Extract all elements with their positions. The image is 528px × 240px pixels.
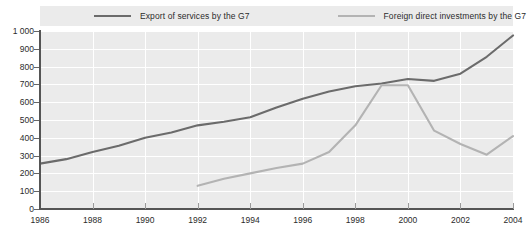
y-axis-label: 700	[0, 79, 34, 89]
x-axis-tick	[355, 203, 356, 209]
x-axis-label: 1988	[73, 215, 113, 225]
x-axis-label: 1992	[178, 215, 218, 225]
x-axis-tick	[250, 203, 251, 209]
x-axis-label: 1986	[20, 215, 60, 225]
y-axis-label: 500	[0, 115, 34, 125]
x-axis-tick	[460, 203, 461, 209]
y-axis-tick	[34, 173, 39, 174]
y-axis-label: 0	[0, 204, 34, 214]
gridline-vertical	[513, 31, 514, 209]
x-axis-label: 1990	[125, 215, 165, 225]
legend-label: Export of services by the G7	[140, 11, 250, 21]
legend-entry-foreign-direct-investments: Foreign direct investments by the G7	[338, 6, 527, 26]
x-axis-label: 1998	[335, 215, 375, 225]
y-axis-label: 600	[0, 97, 34, 107]
y-axis-label: 200	[0, 168, 34, 178]
y-axis-tick	[34, 209, 39, 210]
x-axis-tick	[303, 203, 304, 209]
legend-label: Foreign direct investments by the G7	[384, 11, 527, 21]
legend-entry-export-of-services: Export of services by the G7	[94, 6, 250, 26]
x-axis-label: 2004	[493, 215, 528, 225]
x-axis-label: 2002	[440, 215, 480, 225]
x-axis-label: 1994	[230, 215, 270, 225]
line-foreign-direct-investments	[198, 85, 513, 186]
x-axis-tick	[145, 203, 146, 209]
y-axis-line	[39, 30, 41, 210]
legend-line-swatch-icon	[94, 15, 131, 17]
x-axis-tick	[198, 203, 199, 209]
y-axis-tick	[34, 102, 39, 103]
y-axis-label: 400	[0, 133, 34, 143]
y-axis-tick	[34, 31, 39, 32]
y-axis-tick	[34, 49, 39, 50]
y-axis-label: 800	[0, 62, 34, 72]
y-axis-tick	[34, 84, 39, 85]
y-axis-label: 900	[0, 44, 34, 54]
series-lines	[40, 31, 513, 209]
line-chart: Export of services by the G7 Foreign dir…	[0, 0, 528, 240]
y-axis-label: 1 000	[0, 26, 34, 36]
line-export-of-services	[40, 35, 513, 163]
x-axis-tick	[513, 203, 514, 209]
x-axis-label: 2000	[388, 215, 428, 225]
legend-line-swatch-icon	[338, 15, 375, 17]
plot-area	[40, 31, 513, 209]
x-axis-tick	[93, 203, 94, 209]
y-axis-tick	[34, 191, 39, 192]
x-axis-label: 1996	[283, 215, 323, 225]
y-axis-tick	[34, 156, 39, 157]
x-axis-line	[39, 208, 514, 210]
y-axis-label: 100	[0, 186, 34, 196]
x-axis-tick	[408, 203, 409, 209]
y-axis-tick	[34, 120, 39, 121]
y-axis-tick	[34, 138, 39, 139]
y-axis-label: 300	[0, 151, 34, 161]
chart-legend: Export of services by the G7 Foreign dir…	[40, 6, 513, 26]
y-axis-tick	[34, 67, 39, 68]
